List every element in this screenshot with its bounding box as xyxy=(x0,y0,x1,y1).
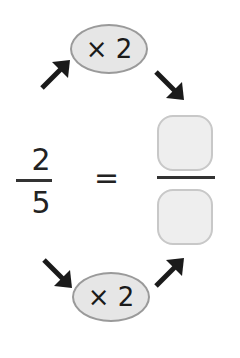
arrow-up-right-icon xyxy=(38,58,72,92)
numerator-answer-box[interactable] xyxy=(157,115,213,171)
right-fraction-bar xyxy=(157,176,215,179)
arrow-down-right-icon xyxy=(152,68,186,102)
bottom-multiplier-label: × 2 xyxy=(88,282,135,312)
denominator-answer-box[interactable] xyxy=(157,189,213,245)
arrow-down-right-icon xyxy=(40,256,74,290)
top-multiplier-oval: × 2 xyxy=(70,24,148,74)
left-numerator: 2 xyxy=(21,142,61,177)
arrow-up-right-icon xyxy=(152,256,186,290)
left-fraction-bar xyxy=(16,179,52,182)
equals-sign: = xyxy=(94,160,119,195)
top-multiplier-label: × 2 xyxy=(86,34,133,64)
left-denominator: 5 xyxy=(21,185,61,220)
bottom-multiplier-oval: × 2 xyxy=(72,272,150,322)
